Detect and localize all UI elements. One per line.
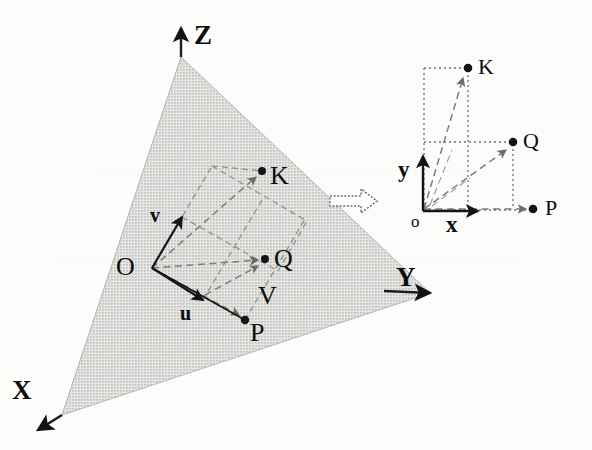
axis-label-y: Y: [396, 264, 416, 291]
point-k-2d: [464, 64, 473, 73]
point-label-p-2d: P: [545, 197, 557, 219]
point-label-k-2d: K: [478, 56, 494, 78]
figure-canvas: Z Y X O v u K Q P V y x o K Q P: [0, 0, 592, 450]
origin-label-o: O: [116, 254, 135, 280]
point-label-q-2d: Q: [523, 130, 539, 152]
point-p: [241, 316, 249, 324]
axis-label-x: X: [12, 377, 32, 404]
vector-diagram-svg: [0, 0, 592, 450]
point-k: [258, 167, 266, 175]
axis-label-x-2d: x: [446, 213, 458, 236]
point-q-2d: [509, 138, 518, 147]
axis-label-z: Z: [194, 22, 212, 49]
axis-x: [38, 415, 62, 430]
label-v-capital: V: [258, 283, 277, 309]
point-p-2d: [529, 205, 538, 214]
vector-label-u: u: [180, 303, 191, 323]
point-label-p: P: [250, 320, 264, 346]
point-q: [261, 255, 269, 263]
point-label-q: Q: [274, 246, 293, 272]
vector-label-v: v: [150, 205, 160, 225]
origin-label-o-2d: o: [411, 213, 420, 230]
point-label-k: K: [270, 163, 289, 189]
axis-label-y-2d: y: [398, 158, 410, 181]
oblique-plane: [62, 57, 430, 415]
